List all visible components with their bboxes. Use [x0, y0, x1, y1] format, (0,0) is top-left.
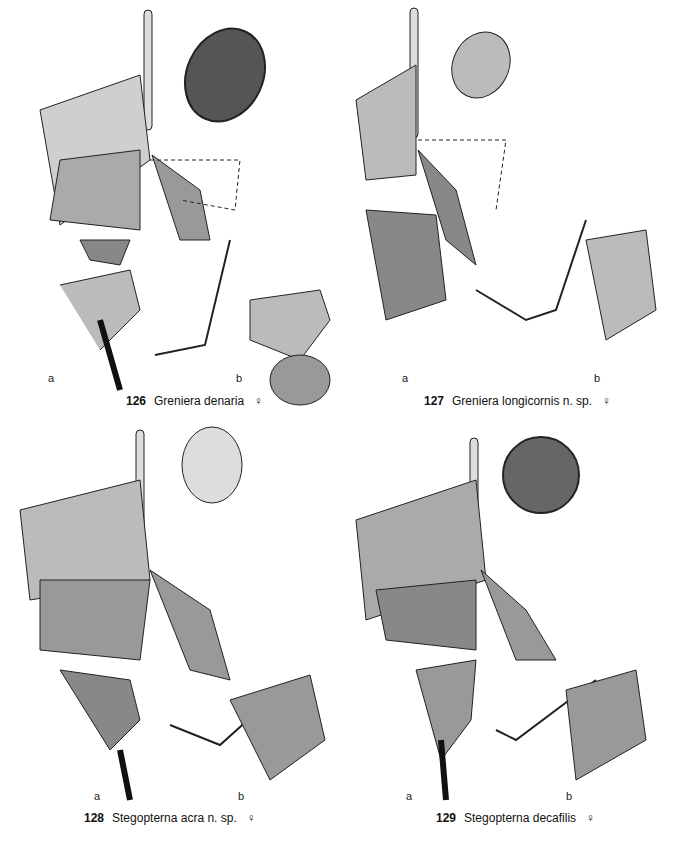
label-b: b [236, 372, 242, 384]
cercus-b [250, 290, 330, 360]
illustration-126 [0, 0, 346, 420]
cercus-b [230, 675, 325, 780]
illustration-128 [0, 420, 346, 843]
species-name: Stegopterna acra n. sp. [112, 811, 237, 825]
figure-caption: 127Greniera longicornis n. sp.♀ [424, 394, 611, 408]
spermatheca [182, 427, 242, 503]
cercus-a [60, 270, 140, 350]
genital-fork-arm [481, 570, 556, 660]
species-name: Stegopterna decafilis [464, 811, 576, 825]
anal-lobe-b [270, 355, 330, 405]
label-a: a [48, 372, 54, 384]
female-symbol: ♀ [586, 811, 595, 825]
genital-fork-stem [144, 10, 152, 130]
label-a: a [406, 790, 412, 802]
figure-caption: 129Stegopterna decafilis♀ [436, 811, 595, 825]
anal-lobe [120, 750, 130, 800]
spermatheca [170, 15, 279, 134]
figure-126: a b 126Greniera denaria♀ [0, 0, 346, 420]
female-symbol: ♀ [247, 811, 256, 825]
cercus-b [566, 670, 646, 780]
figure-128: a b 128Stegopterna acra n. sp.♀ [0, 420, 346, 840]
figure-number: 128 [84, 811, 104, 825]
figure-caption: 126Greniera denaria♀ [126, 394, 263, 408]
hypogynial-valve [50, 150, 140, 230]
figure-127: a b 127Greniera longicornis n. sp.♀ [346, 0, 692, 420]
label-a: a [402, 372, 408, 384]
spermatheca [441, 22, 520, 107]
spermatheca [503, 437, 579, 513]
genital-fork-arm [152, 155, 210, 240]
label-b: b [566, 790, 572, 802]
hypogynial-valve [376, 580, 476, 650]
outline-b [155, 240, 230, 355]
figure-caption: 128Stegopterna acra n. sp.♀ [84, 811, 256, 825]
label-b: b [238, 790, 244, 802]
label-a: a [94, 790, 100, 802]
tergite [356, 65, 416, 180]
figure-number: 127 [424, 394, 444, 408]
cercus-a [60, 670, 140, 750]
figure-number: 126 [126, 394, 146, 408]
cercus-b [586, 230, 656, 340]
cercus-a [416, 660, 476, 760]
figure-number: 129 [436, 811, 456, 825]
illustration-127 [346, 0, 692, 420]
sternite [80, 240, 130, 265]
label-b: b [594, 372, 600, 384]
illustration-129 [346, 420, 692, 843]
cercus-a [366, 210, 446, 320]
species-name: Greniera longicornis n. sp. [452, 394, 592, 408]
species-name: Greniera denaria [154, 394, 244, 408]
figure-129: a b 129Stegopterna decafilis♀ [346, 420, 692, 840]
female-symbol: ♀ [254, 394, 263, 408]
hypogynial-valve [40, 580, 150, 660]
outline-b [476, 220, 586, 320]
female-symbol: ♀ [602, 394, 611, 408]
genital-fork-arm [150, 570, 230, 680]
